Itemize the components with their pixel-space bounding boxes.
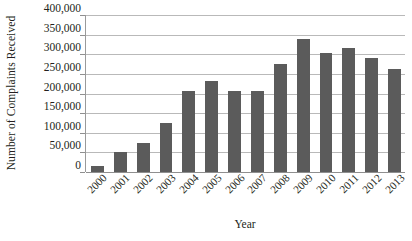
- bar: [388, 69, 401, 172]
- plot-area: [85, 15, 405, 172]
- bar: [160, 123, 173, 172]
- y-axis-tick-label: 250,000: [44, 62, 81, 74]
- x-axis-title: Year: [85, 218, 405, 230]
- y-axis-tick-label: 150,000: [44, 101, 81, 113]
- y-axis-tick-label: 400,000: [44, 3, 81, 15]
- x-axis-tick-label: 2000: [85, 171, 109, 195]
- y-axis-tick-label: 350,000: [44, 23, 81, 35]
- y-axis-tick-label: 200,000: [44, 82, 81, 94]
- x-axis-tick-label: 2001: [108, 171, 132, 195]
- x-axis-tick-label: 2007: [245, 171, 269, 195]
- x-axis-tick-label: 2003: [154, 171, 178, 195]
- x-axis-tick-label: 2009: [291, 171, 315, 195]
- x-axis-tick-label: 2008: [268, 171, 292, 195]
- x-axis-tick-label: 2011: [337, 171, 361, 195]
- y-axis-title-text: Number of Complaints Received: [5, 15, 17, 170]
- x-axis-tick-label: 2006: [222, 171, 246, 195]
- x-axis-tick-label: 2004: [177, 171, 201, 195]
- bar: [251, 91, 264, 172]
- bar: [365, 58, 378, 172]
- x-axis-tick-label: 2002: [131, 171, 155, 195]
- bar: [114, 152, 127, 172]
- bar: [205, 81, 218, 172]
- x-axis-tick-label: 2005: [199, 171, 223, 195]
- x-axis-tick-label: 2012: [359, 171, 383, 195]
- y-axis-tick-label: 50,000: [49, 141, 81, 153]
- y-axis-tick-label: 100,000: [44, 121, 81, 133]
- bar: [320, 53, 333, 172]
- x-axis-tick-label: 2013: [382, 171, 406, 195]
- bar: [274, 64, 287, 172]
- bar: [228, 91, 241, 172]
- bars-layer: [86, 15, 405, 172]
- bar: [297, 39, 310, 172]
- y-axis-tick-label: 300,000: [44, 43, 81, 55]
- gridline: [86, 172, 405, 173]
- x-axis-tick-label: 2010: [314, 171, 338, 195]
- y-axis-tick-labels: 050,000100,000150,000200,000250,000300,0…: [20, 9, 84, 173]
- bar: [91, 166, 104, 172]
- bar-chart-figure: Number of Complaints Received 050,000100…: [0, 0, 412, 241]
- y-axis-title: Number of Complaints Received: [0, 0, 22, 185]
- bar: [137, 143, 150, 172]
- bar: [342, 48, 355, 172]
- x-axis-tick-labels: 2000200120022003200420052006200720082009…: [85, 174, 405, 214]
- bar: [182, 91, 195, 172]
- y-axis-tick-mark: [80, 172, 85, 173]
